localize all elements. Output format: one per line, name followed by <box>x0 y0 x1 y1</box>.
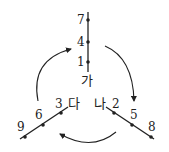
arrow-da-to-ga-icon <box>37 49 71 101</box>
axis-label-da: 다 <box>68 96 80 111</box>
label-3: 3 <box>55 97 63 111</box>
label-8: 8 <box>148 120 156 134</box>
axis-da: 3 6 9 다 <box>17 96 80 139</box>
label-7: 7 <box>77 13 85 27</box>
point-3 <box>59 111 63 115</box>
arrow-na-to-da-icon <box>60 132 116 143</box>
arrow-ga-to-na-icon <box>105 46 134 101</box>
label-2: 2 <box>112 97 120 111</box>
point-4 <box>86 40 90 44</box>
point-8 <box>149 135 153 139</box>
label-5: 5 <box>130 108 138 122</box>
point-9 <box>23 135 27 139</box>
point-1 <box>86 60 90 64</box>
label-4: 4 <box>77 35 85 49</box>
point-6 <box>41 123 45 127</box>
point-7 <box>86 18 90 22</box>
axis-na: 나 2 5 8 <box>94 96 156 139</box>
label-6: 6 <box>35 108 43 122</box>
axis-label-na: 나 <box>94 96 106 111</box>
label-9: 9 <box>17 120 25 134</box>
point-2 <box>112 111 116 115</box>
rotation-diagram: 7 4 1 가 나 2 5 8 3 6 9 다 <box>0 0 169 152</box>
point-5 <box>130 123 134 127</box>
axis-label-ga: 가 <box>81 73 93 88</box>
label-1: 1 <box>77 55 85 69</box>
axis-ga: 7 4 1 가 <box>77 12 93 88</box>
